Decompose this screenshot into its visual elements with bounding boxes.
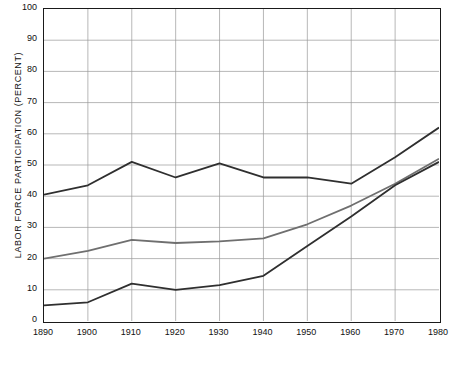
x-tick-label: 1930 bbox=[202, 327, 236, 337]
y-tick-label: 30 bbox=[11, 220, 37, 230]
y-tick-label: 70 bbox=[11, 96, 37, 106]
data-lines bbox=[44, 128, 439, 306]
plot-area bbox=[43, 8, 441, 323]
series-line-upper-series bbox=[44, 128, 439, 195]
y-tick-label: 60 bbox=[11, 127, 37, 137]
x-tick-label: 1900 bbox=[70, 327, 104, 337]
chart-svg bbox=[44, 9, 439, 321]
x-tick-label: 1980 bbox=[421, 327, 455, 337]
series-line-middle-series bbox=[44, 159, 439, 259]
series-line-lower-series bbox=[44, 162, 439, 306]
chart-figure: LABOR FORCE PARTICIPATION (PERCENT) 0102… bbox=[0, 0, 468, 378]
y-tick-label: 10 bbox=[11, 283, 37, 293]
x-tick-label: 1950 bbox=[289, 327, 323, 337]
y-tick-label: 50 bbox=[11, 158, 37, 168]
y-tick-label: 0 bbox=[11, 314, 37, 324]
y-tick-label: 20 bbox=[11, 252, 37, 262]
x-tick-label: 1960 bbox=[333, 327, 367, 337]
x-tick-label: 1890 bbox=[26, 327, 60, 337]
x-tick-label: 1920 bbox=[158, 327, 192, 337]
gridlines bbox=[44, 9, 439, 321]
x-tick-label: 1970 bbox=[377, 327, 411, 337]
x-tick-label: 1940 bbox=[245, 327, 279, 337]
y-tick-label: 100 bbox=[11, 2, 37, 12]
y-tick-label: 80 bbox=[11, 64, 37, 74]
x-tick-label: 1910 bbox=[114, 327, 148, 337]
y-tick-label: 40 bbox=[11, 189, 37, 199]
y-tick-label: 90 bbox=[11, 33, 37, 43]
